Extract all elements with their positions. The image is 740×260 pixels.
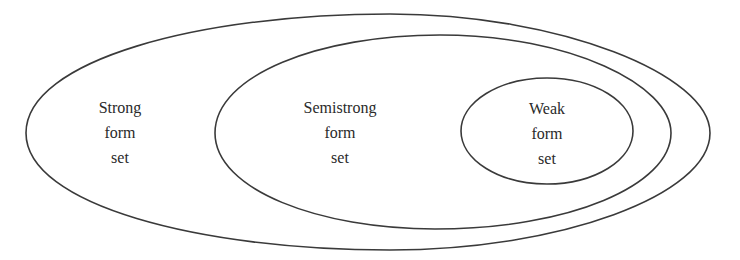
strong-label-line-3: set bbox=[80, 145, 160, 170]
semistrong-form-set-boundary bbox=[215, 35, 671, 229]
weak-label-line-1: Weak bbox=[507, 96, 587, 121]
weak-label-line-3: set bbox=[507, 146, 587, 171]
strong-label-line-1: Strong bbox=[80, 95, 160, 120]
semistrong-label-line-2: form bbox=[285, 120, 395, 145]
weak-label-line-2: form bbox=[507, 121, 587, 146]
semistrong-label-line-3: set bbox=[285, 145, 395, 170]
strong-label-line-2: form bbox=[80, 120, 160, 145]
strong-form-set-label: Strong form set bbox=[80, 95, 160, 170]
weak-form-set-label: Weak form set bbox=[507, 96, 587, 171]
semistrong-label-line-1: Semistrong bbox=[285, 95, 395, 120]
semistrong-form-set-label: Semistrong form set bbox=[285, 95, 395, 170]
